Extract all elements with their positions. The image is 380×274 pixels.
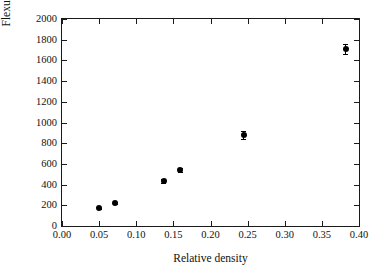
y-axis-tick-label: 1600 <box>36 55 57 66</box>
data-point-marker <box>177 167 183 173</box>
x-axis-tick <box>211 221 212 226</box>
data-point <box>93 202 105 214</box>
x-axis-tick-top <box>285 19 286 24</box>
y-axis-tick <box>62 205 67 206</box>
x-axis-tick-top <box>136 19 137 24</box>
data-point-marker <box>343 46 349 52</box>
data-point <box>340 43 352 55</box>
x-axis-tick <box>136 221 137 226</box>
y-axis-tick-right <box>354 102 359 103</box>
x-axis-tick-top <box>99 19 100 24</box>
y-axis-tick-label: 1000 <box>36 117 57 128</box>
x-axis-tick-top <box>173 19 174 24</box>
data-point-marker <box>161 178 167 184</box>
y-axis-tick <box>62 40 67 41</box>
y-axis-tick-right <box>354 205 359 206</box>
chart-page: Flexural modulus of elasticity (MPa) 020… <box>0 0 380 274</box>
x-axis-tick <box>173 221 174 226</box>
y-axis-tick-right <box>354 164 359 165</box>
error-bar-cap-bottom <box>343 54 348 55</box>
data-point-marker <box>241 132 247 138</box>
x-axis-tick-label: 0.15 <box>164 230 182 241</box>
x-axis-tick-label: 0.40 <box>350 230 368 241</box>
y-axis-tick-label: 800 <box>41 138 57 149</box>
y-axis-tick-label: 200 <box>41 200 57 211</box>
y-axis-tick <box>62 143 67 144</box>
x-axis-tick-label: 0.10 <box>127 230 145 241</box>
x-axis-tick-label: 0.35 <box>313 230 331 241</box>
plot-data-area: 02004006008001000120014001600180020000.0… <box>62 19 359 226</box>
data-point <box>109 197 121 209</box>
y-axis-tick <box>62 226 67 227</box>
y-axis-tick <box>62 81 67 82</box>
y-axis-tick-right <box>354 81 359 82</box>
x-axis-tick-label: 0.25 <box>238 230 256 241</box>
data-point-marker <box>112 200 118 206</box>
y-axis-tick-right <box>354 40 359 41</box>
error-bar-cap-bottom <box>241 139 246 140</box>
y-axis-tick <box>62 60 67 61</box>
x-axis-tick-top <box>248 19 249 24</box>
y-axis-tick-label: 600 <box>41 159 57 170</box>
x-axis-tick-top <box>359 19 360 24</box>
x-axis-tick <box>322 221 323 226</box>
y-axis-tick-right <box>354 226 359 227</box>
x-axis-tick-top <box>322 19 323 24</box>
data-point <box>174 164 186 176</box>
y-axis-tick-label: 1200 <box>36 97 57 108</box>
y-axis-tick-right <box>354 143 359 144</box>
y-axis-title: Flexural modulus of elasticity (MPa) <box>0 0 14 46</box>
x-axis-tick-top <box>211 19 212 24</box>
x-axis-tick <box>62 221 63 226</box>
y-axis-tick <box>62 102 67 103</box>
y-axis-tick-label: 2000 <box>36 14 57 25</box>
y-axis-tick-right <box>354 123 359 124</box>
x-axis-tick-label: 0.00 <box>53 230 71 241</box>
x-axis-tick-label: 0.05 <box>90 230 108 241</box>
y-axis-tick-label: 1800 <box>36 34 57 45</box>
y-axis-tick <box>62 164 67 165</box>
x-axis-title: Relative density <box>61 252 360 264</box>
data-point-marker <box>96 205 102 211</box>
y-axis-tick <box>62 123 67 124</box>
y-axis-tick-label: 400 <box>41 179 57 190</box>
x-axis-tick <box>99 221 100 226</box>
x-axis-tick <box>359 221 360 226</box>
y-axis-tick <box>62 185 67 186</box>
plot-frame: 02004006008001000120014001600180020000.0… <box>61 18 360 227</box>
data-point <box>238 129 250 141</box>
y-axis-tick-right <box>354 60 359 61</box>
x-axis-tick-label: 0.20 <box>201 230 219 241</box>
x-axis-tick <box>285 221 286 226</box>
x-axis-tick-label: 0.30 <box>276 230 294 241</box>
x-axis-tick-top <box>62 19 63 24</box>
y-axis-tick-label: 1400 <box>36 76 57 87</box>
x-axis-tick <box>248 221 249 226</box>
y-axis-tick-right <box>354 185 359 186</box>
data-point <box>158 175 170 187</box>
